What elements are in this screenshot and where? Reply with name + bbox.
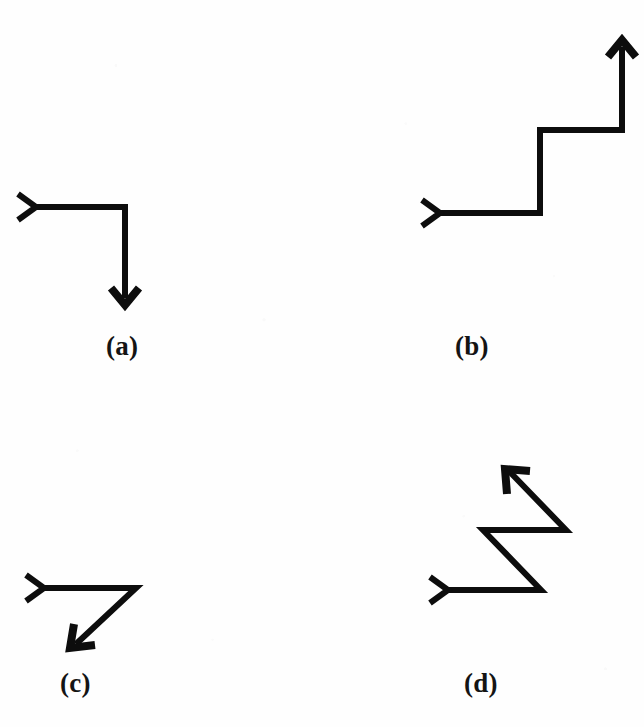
chevron-right-icon-d <box>430 577 448 603</box>
panel-label-b: (b) <box>455 333 489 360</box>
arrow-path-b <box>440 47 622 213</box>
arrow-diagram-b <box>400 20 644 240</box>
arrow-diagram-a <box>0 150 322 330</box>
arrow-diagram-d <box>400 450 644 615</box>
panel-a <box>0 150 322 330</box>
arrow-diagram-c <box>0 545 250 665</box>
panel-label-a: (a) <box>106 333 138 360</box>
chevron-right-icon-a <box>18 194 36 220</box>
panel-c <box>0 545 250 665</box>
panel-d <box>400 450 644 615</box>
panel-b <box>400 20 644 240</box>
chevron-right-icon-c <box>26 575 44 601</box>
panel-label-d: (d) <box>464 670 498 697</box>
arrow-path-c <box>44 588 136 644</box>
chevron-right-icon-b <box>422 200 440 226</box>
arrow-path-a <box>36 207 125 298</box>
panel-label-c: (c) <box>60 670 91 697</box>
figure-page: (a) (b) (c) (d) <box>0 0 644 727</box>
